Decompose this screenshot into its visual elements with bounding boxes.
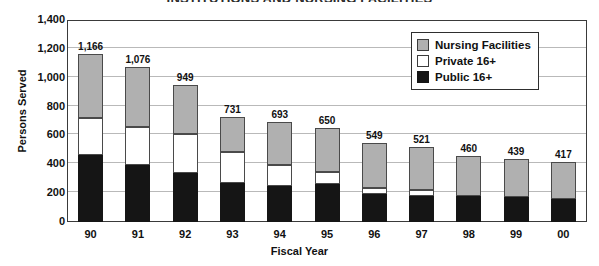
y-tick-label: 200: [5, 186, 65, 198]
bar-96[interactable]: 549: [362, 143, 387, 222]
legend-label: Private 16+: [435, 55, 496, 67]
bar-segment-nursing-facilities[interactable]: [78, 54, 103, 118]
y-tick-label: 800: [5, 100, 65, 112]
bar-segment-public-16-plus[interactable]: [409, 196, 434, 222]
x-tick-label-98: 98: [446, 228, 492, 240]
x-tick-label-92: 92: [162, 228, 208, 240]
bar-segment-nursing-facilities[interactable]: [125, 67, 150, 127]
bar-98[interactable]: 460: [456, 156, 481, 222]
stacked-bar-chart: INSTITUTIONS AND NURSING FACILITIES Pers…: [0, 0, 599, 266]
bar-total-label: 460: [460, 143, 477, 154]
y-tick-label: 400: [5, 157, 65, 169]
legend-item[interactable]: Private 16+: [417, 53, 531, 69]
bar-segment-public-16-plus[interactable]: [220, 183, 245, 222]
bar-segment-public-16-plus[interactable]: [78, 155, 103, 222]
chart-title: INSTITUTIONS AND NURSING FACILITIES: [0, 0, 599, 2]
bar-segment-public-16-plus[interactable]: [267, 186, 292, 222]
bar-00[interactable]: 417: [551, 162, 576, 222]
bar-segment-nursing-facilities[interactable]: [267, 122, 292, 165]
bar-segment-private-16-plus[interactable]: [315, 172, 340, 184]
bar-segment-nursing-facilities[interactable]: [315, 128, 340, 171]
legend-item[interactable]: Nursing Facilities: [417, 37, 531, 53]
bar-segment-public-16-plus[interactable]: [504, 197, 529, 222]
x-tick-label-94: 94: [257, 228, 303, 240]
legend-label: Public 16+: [435, 71, 492, 83]
bar-segment-public-16-plus[interactable]: [173, 173, 198, 222]
y-tick-label: 1,000: [5, 71, 65, 83]
bar-segment-private-16-plus[interactable]: [362, 188, 387, 194]
bar-segment-nursing-facilities[interactable]: [173, 85, 198, 134]
bar-segment-nursing-facilities[interactable]: [551, 162, 576, 199]
bar-segment-public-16-plus[interactable]: [315, 184, 340, 222]
bar-segment-private-16-plus[interactable]: [220, 152, 245, 183]
bar-total-label: 1,166: [78, 41, 103, 52]
y-tick-label: 600: [5, 128, 65, 140]
legend-swatch-icon: [417, 71, 429, 83]
bar-92[interactable]: 949: [173, 85, 198, 222]
bar-total-label: 521: [413, 134, 430, 145]
bar-segment-public-16-plus[interactable]: [125, 165, 150, 222]
bar-91[interactable]: 1,076: [125, 67, 150, 222]
bar-94[interactable]: 693: [267, 122, 292, 222]
x-tick-label-96: 96: [351, 228, 397, 240]
bar-segment-nursing-facilities[interactable]: [362, 143, 387, 188]
bar-90[interactable]: 1,166: [78, 54, 103, 222]
bar-total-label: 1,076: [125, 54, 150, 65]
x-tick-label-99: 99: [493, 228, 539, 240]
bar-segment-nursing-facilities[interactable]: [456, 156, 481, 196]
y-tick-label: 0: [5, 215, 65, 227]
bar-97[interactable]: 521: [409, 147, 434, 222]
bar-segment-public-16-plus[interactable]: [551, 199, 576, 222]
bar-total-label: 949: [177, 72, 194, 83]
bar-segment-private-16-plus[interactable]: [173, 134, 198, 173]
x-tick-label-90: 90: [68, 228, 114, 240]
x-tick-label-93: 93: [209, 228, 255, 240]
bar-segment-private-16-plus[interactable]: [125, 127, 150, 165]
bar-total-label: 549: [366, 130, 383, 141]
bar-total-label: 650: [319, 115, 336, 126]
bar-segment-private-16-plus[interactable]: [409, 190, 434, 196]
x-tick-label-97: 97: [399, 228, 445, 240]
bar-total-label: 417: [555, 149, 572, 160]
bar-segment-nursing-facilities[interactable]: [504, 159, 529, 197]
y-tick-label: 1,200: [5, 42, 65, 54]
bar-segment-private-16-plus[interactable]: [78, 118, 103, 155]
legend-swatch-icon: [417, 39, 429, 51]
bar-total-label: 731: [224, 104, 241, 115]
bar-95[interactable]: 650: [315, 128, 340, 222]
bar-segment-public-16-plus[interactable]: [456, 196, 481, 222]
legend-label: Nursing Facilities: [435, 39, 531, 51]
bar-total-label: 693: [271, 109, 288, 120]
x-axis-title: Fiscal Year: [0, 245, 599, 257]
legend-item[interactable]: Public 16+: [417, 69, 531, 85]
bar-segment-nursing-facilities[interactable]: [409, 147, 434, 190]
x-tick-label-91: 91: [115, 228, 161, 240]
legend-swatch-icon: [417, 55, 429, 67]
legend: Nursing FacilitiesPrivate 16+Public 16+: [411, 32, 539, 90]
bar-segment-nursing-facilities[interactable]: [220, 117, 245, 152]
bar-segment-public-16-plus[interactable]: [362, 194, 387, 222]
y-tick-label: 1,400: [5, 13, 65, 25]
bar-93[interactable]: 731: [220, 117, 245, 222]
x-tick-label-95: 95: [304, 228, 350, 240]
bar-total-label: 439: [508, 146, 525, 157]
x-tick-label-00: 00: [540, 228, 586, 240]
bar-segment-private-16-plus[interactable]: [267, 165, 292, 186]
bar-99[interactable]: 439: [504, 159, 529, 222]
